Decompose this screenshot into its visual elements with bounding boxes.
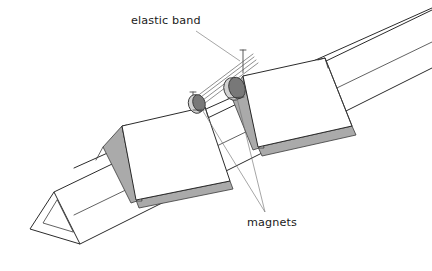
flap-right xyxy=(230,58,356,156)
prism-body xyxy=(30,8,432,244)
label-elastic-band: elastic band xyxy=(131,14,201,27)
prism-end-cap-outer xyxy=(30,192,80,244)
diagram-canvas: Elastic band and magnets on triangular p… xyxy=(0,0,432,271)
diagram-figure: Elastic band and magnets on triangular p… xyxy=(0,0,432,271)
leader-elastic-band xyxy=(196,31,240,61)
flap-left xyxy=(96,107,233,208)
flap-left-hinge-tip xyxy=(96,147,103,160)
label-magnets: magnets xyxy=(247,216,297,229)
